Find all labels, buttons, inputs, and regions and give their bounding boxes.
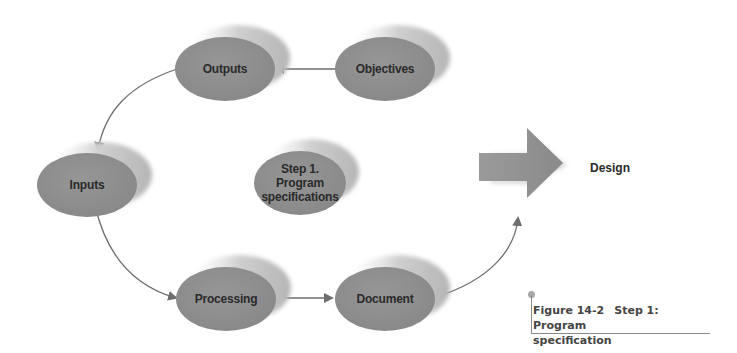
- figure-caption: Figure 14-2Step 1: Program specification: [533, 303, 708, 348]
- node-label-objectives: Objectives: [356, 62, 415, 76]
- node-label-inputs: Inputs: [70, 178, 105, 192]
- node-label-outputs: Outputs: [203, 62, 248, 76]
- design-label: Design: [590, 161, 630, 175]
- figure-number: Figure 14-2: [533, 304, 604, 317]
- node-label-center: Step 1. Program specifications: [261, 162, 338, 204]
- center-line-2: Program: [261, 176, 338, 190]
- caption-rule-vertical: [531, 296, 532, 334]
- node-label-document: Document: [356, 292, 413, 306]
- center-line-3: specifications: [261, 190, 338, 204]
- center-line-1: Step 1.: [261, 162, 338, 176]
- caption-title-line2: specification: [533, 334, 612, 347]
- edge-outputs-to-inputs: [98, 69, 177, 150]
- node-label-processing: Processing: [195, 292, 258, 306]
- edge-inputs-to-processing: [95, 205, 176, 298]
- right-arrow-icon: [479, 128, 567, 198]
